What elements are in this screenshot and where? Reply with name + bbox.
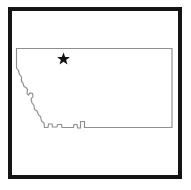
montana-outline-map-figure: Outline map of the state of Montana encl… bbox=[0, 0, 191, 190]
montana-state-outline-path bbox=[17, 49, 173, 129]
state-outline-svg bbox=[0, 0, 191, 190]
